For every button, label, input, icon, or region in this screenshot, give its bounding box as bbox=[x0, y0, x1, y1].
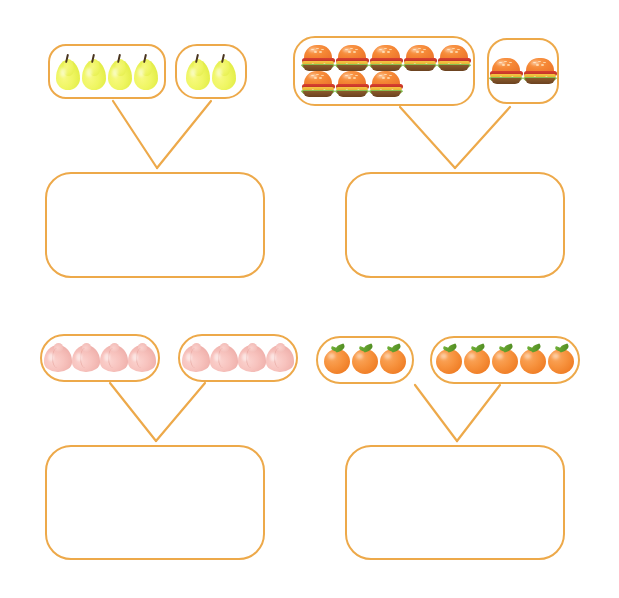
orange-icon bbox=[435, 345, 463, 375]
orange-icon bbox=[379, 345, 407, 375]
orange-icon bbox=[491, 345, 519, 375]
orange-icon bbox=[463, 345, 491, 375]
connector-lines bbox=[409, 381, 512, 447]
addend-group-box bbox=[430, 336, 580, 384]
answer-box[interactable] bbox=[345, 445, 565, 560]
icon-row bbox=[438, 345, 572, 375]
orange-icon bbox=[519, 345, 547, 375]
problem-4 bbox=[0, 0, 619, 598]
icon-row bbox=[324, 345, 406, 375]
orange-icon bbox=[323, 345, 351, 375]
orange-icon bbox=[547, 345, 575, 375]
addend-group-box bbox=[316, 336, 414, 384]
orange-icon bbox=[351, 345, 379, 375]
worksheet-canvas bbox=[0, 0, 619, 598]
